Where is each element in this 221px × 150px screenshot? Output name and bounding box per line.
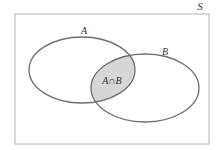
venn-diagram: S A B A∩B [0, 0, 221, 150]
intersection-label: A∩B [101, 75, 121, 86]
set-b-label: B [162, 46, 168, 57]
set-a-label: A [80, 25, 88, 36]
universe-label: S [197, 0, 203, 12]
